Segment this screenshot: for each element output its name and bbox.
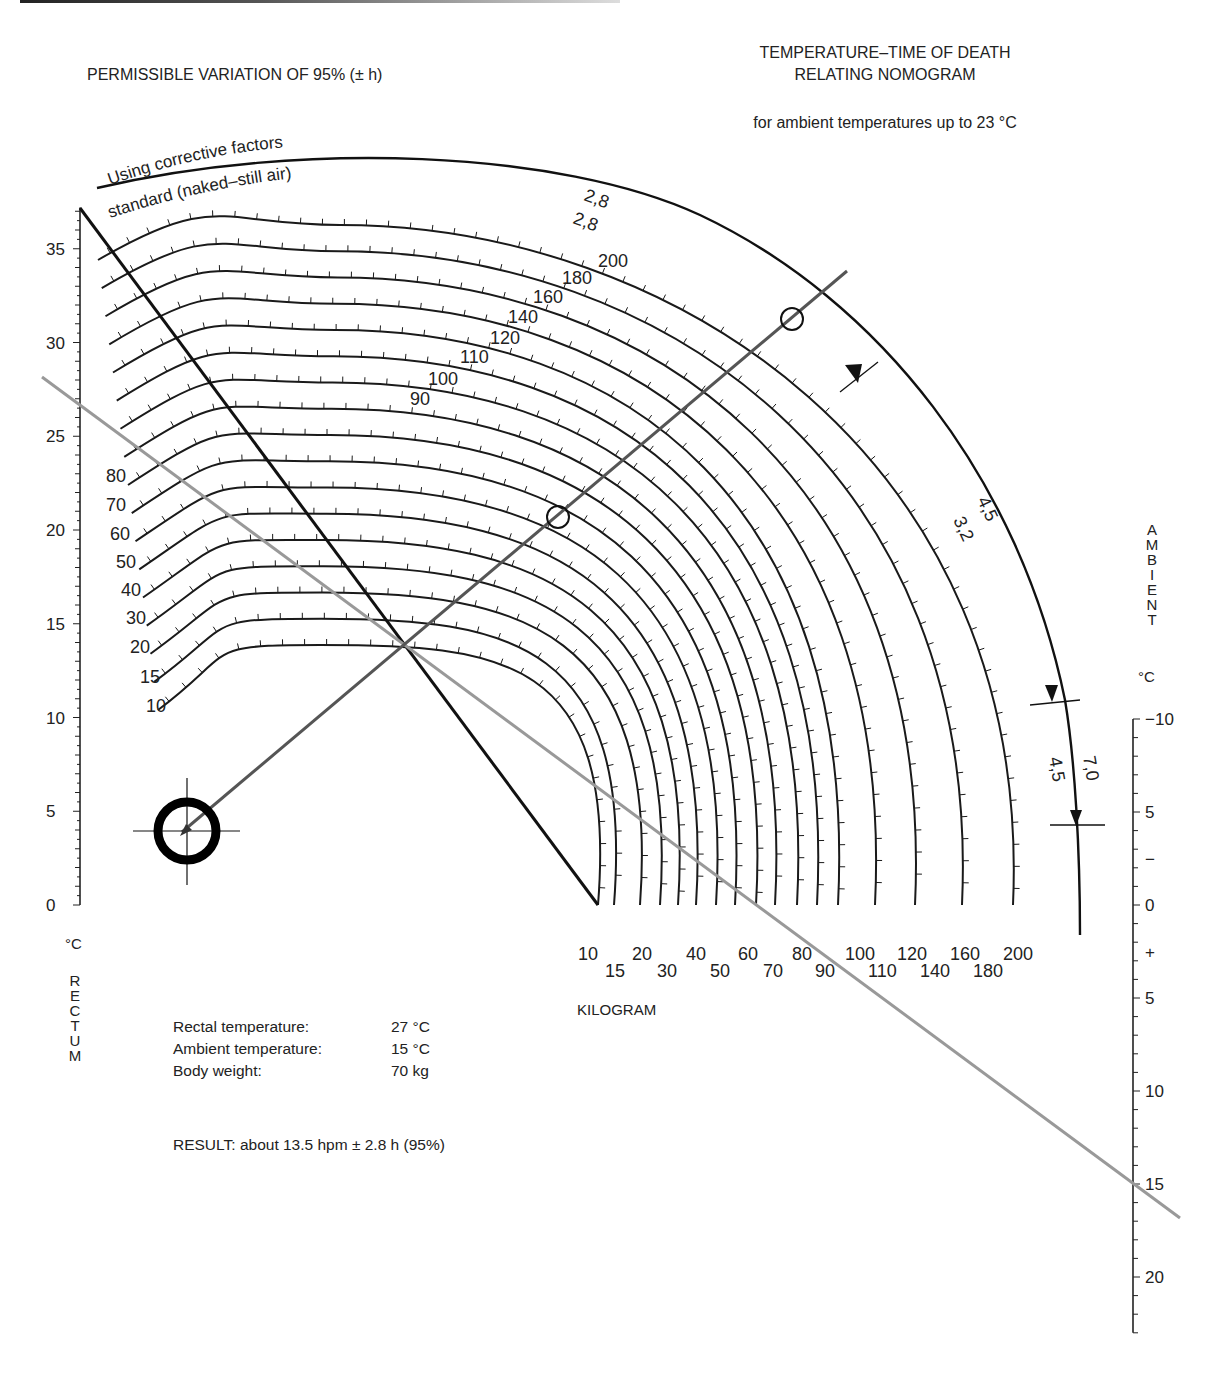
hour-tick (954, 587, 959, 590)
hour-tick (667, 524, 671, 528)
arrow-icon (1045, 685, 1058, 702)
hour-tick (944, 567, 949, 570)
hour-tick (820, 580, 825, 583)
hour-tick (742, 509, 747, 513)
hour-tick (715, 793, 721, 794)
hour-tick (530, 541, 532, 547)
hour-tick (587, 574, 591, 579)
hour-tick (190, 586, 194, 591)
hour-tick (833, 468, 838, 472)
hour-tick (198, 668, 202, 672)
hour-tick (903, 720, 909, 721)
hour-tick (724, 560, 729, 563)
weight-top-label: 140 (508, 307, 538, 327)
hour-tick (179, 655, 183, 660)
hour-tick (278, 216, 279, 222)
hour-tick (714, 690, 720, 692)
hour-tick (735, 579, 740, 582)
hour-tick (653, 694, 659, 696)
hour-tick (169, 572, 173, 577)
axis-letter: N (1144, 597, 1160, 612)
hour-tick (206, 547, 209, 552)
hour-tick (584, 701, 589, 704)
weight-curve-10 (158, 645, 600, 905)
hour-tick (650, 446, 654, 451)
hour-tick (770, 603, 775, 605)
hour-tick (787, 725, 793, 726)
hour-tick (757, 351, 760, 356)
hour-tick (111, 276, 114, 281)
hour-tick (795, 606, 801, 608)
axis-letter: M (1144, 537, 1160, 552)
hour-tick (898, 491, 903, 495)
variation-label: 4,5 (973, 493, 1002, 524)
hour-tick (804, 708, 810, 709)
hour-tick (580, 734, 585, 736)
hour-tick (738, 376, 742, 381)
hour-tick (826, 712, 832, 713)
hour-tick (543, 276, 545, 282)
hour-tick (714, 632, 719, 635)
hour-tick (507, 506, 509, 512)
kg-lower-label: 30 (657, 961, 677, 981)
hour-tick (203, 322, 204, 328)
hour-tick (597, 799, 603, 800)
hour-tick (188, 384, 190, 390)
hour-tick (793, 665, 799, 667)
hour-tick (161, 338, 164, 343)
hour-tick (605, 619, 609, 623)
kg-lower-label: 90 (815, 961, 835, 981)
axis-letter: R (67, 973, 83, 988)
ambient-tick-label: 5 (1145, 989, 1154, 1008)
hour-tick (187, 559, 190, 564)
hour-tick (608, 764, 614, 765)
hour-tick (746, 599, 751, 602)
hour-tick (567, 533, 570, 538)
hour-tick (219, 458, 220, 464)
hour-tick (793, 769, 799, 770)
hour-tick (689, 628, 694, 631)
ambient-temperature-axis: −105−0+5101520 (1133, 710, 1174, 1333)
hour-tick (165, 544, 168, 549)
hour-tick (691, 765, 697, 766)
hour-tick (458, 647, 459, 653)
hour-tick (222, 484, 223, 490)
hour-tick (393, 432, 394, 438)
hour-tick (638, 789, 644, 790)
hour-tick (646, 349, 649, 354)
rectal-tick-label: 25 (46, 427, 65, 446)
rectal-label: Rectal temperature: (173, 1016, 391, 1038)
hour-tick (846, 486, 851, 490)
hour-tick (712, 771, 718, 772)
hour-tick (195, 641, 199, 646)
hour-tick (432, 592, 433, 598)
hour-tick (707, 669, 713, 671)
hour-tick (582, 260, 584, 266)
hour-tick (477, 627, 478, 633)
hour-tick (871, 522, 876, 525)
weight-left-label: 40 (121, 580, 141, 600)
hour-tick (260, 240, 261, 246)
hour-tick (667, 737, 673, 738)
hour-tick (619, 511, 623, 516)
hour-tick (946, 707, 952, 708)
hour-tick (569, 714, 574, 717)
rectal-temperature-axis: 05101520253035 (46, 208, 80, 916)
hour-tick (632, 654, 637, 657)
hour-tick (729, 616, 734, 619)
hour-tick (527, 514, 529, 520)
hour-tick (150, 255, 152, 260)
hour-tick (562, 476, 565, 481)
hour-tick (171, 247, 173, 253)
hour-tick (604, 558, 608, 563)
hour-tick (651, 573, 656, 577)
hour-tick (470, 548, 471, 554)
hour-tick (483, 473, 485, 479)
hour-tick (647, 640, 652, 643)
hour-tick (660, 715, 666, 717)
weight-curve-140 (109, 298, 876, 905)
hour-tick (713, 508, 718, 512)
weight-left-label: 70 (106, 495, 126, 515)
hour-tick (158, 641, 162, 646)
hour-tick (837, 621, 843, 623)
